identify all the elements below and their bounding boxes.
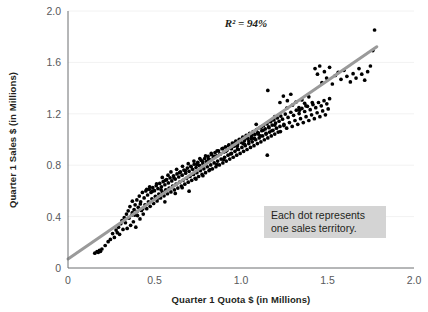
data-point (304, 115, 308, 119)
data-point (192, 159, 196, 163)
data-point (259, 140, 263, 144)
data-point (286, 116, 290, 120)
data-point (215, 163, 219, 167)
data-point (113, 236, 117, 240)
data-point (198, 157, 202, 161)
data-point (229, 152, 233, 156)
data-point (266, 136, 270, 140)
data-point (235, 153, 239, 157)
data-point (201, 160, 205, 164)
data-point (177, 175, 181, 179)
data-point (228, 157, 232, 161)
data-point (241, 142, 245, 146)
callout-line-1: Each dot represents (271, 209, 365, 221)
data-point (265, 153, 269, 157)
data-point (201, 174, 205, 178)
data-point (288, 121, 292, 125)
data-point (135, 198, 139, 202)
data-point (354, 76, 358, 80)
data-point (282, 94, 286, 98)
data-point (254, 122, 258, 126)
data-point (345, 74, 349, 78)
data-point (281, 117, 285, 121)
data-point (141, 212, 145, 216)
data-point (316, 72, 320, 76)
data-point (215, 149, 219, 153)
data-point (180, 186, 184, 190)
data-point (315, 111, 319, 115)
data-point (137, 194, 141, 198)
data-point (357, 67, 361, 71)
data-point (278, 125, 282, 129)
data-point (322, 99, 326, 103)
data-point (259, 134, 263, 138)
data-point (128, 205, 132, 209)
data-point (155, 182, 159, 186)
data-point (189, 165, 193, 169)
data-point (289, 92, 293, 96)
data-point (282, 124, 286, 128)
x-axis-title: Quarter 1 Quota $ (in Millions) (172, 294, 311, 305)
data-point (285, 126, 289, 130)
data-point (166, 181, 170, 185)
data-point (363, 78, 367, 82)
data-point (103, 244, 107, 248)
data-point (256, 142, 260, 146)
data-point (318, 64, 322, 68)
data-point (310, 113, 314, 117)
data-point (183, 182, 187, 186)
data-point (319, 104, 323, 108)
data-point (151, 189, 155, 193)
data-point (301, 121, 305, 125)
data-point (298, 108, 302, 112)
data-point (142, 196, 146, 200)
data-point (166, 173, 170, 177)
data-point (261, 128, 265, 132)
data-point (313, 117, 317, 121)
data-point (132, 220, 136, 224)
data-point (111, 232, 115, 236)
data-point (170, 179, 174, 183)
data-point (146, 193, 150, 197)
y-tick-label: 1.6 (46, 56, 61, 68)
data-point (373, 28, 377, 32)
data-point (109, 238, 113, 242)
data-point (313, 67, 317, 71)
data-point (252, 144, 256, 148)
data-point (209, 152, 213, 156)
data-point (293, 119, 297, 123)
data-point (172, 176, 176, 180)
data-point (296, 122, 300, 126)
data-point (138, 202, 142, 206)
data-point (292, 113, 296, 117)
data-point (247, 139, 251, 143)
data-point (314, 106, 318, 110)
data-point (308, 108, 312, 112)
data-point (204, 171, 208, 175)
data-point (273, 123, 277, 127)
data-point (318, 115, 322, 119)
data-point (195, 163, 199, 167)
data-point (186, 162, 190, 166)
data-point (326, 107, 330, 111)
data-point (266, 89, 270, 93)
data-point (148, 185, 152, 189)
data-point (118, 232, 122, 236)
x-tick-label: 1.5 (320, 274, 335, 286)
data-point (125, 212, 129, 216)
data-point (176, 186, 180, 190)
data-point (253, 137, 257, 141)
y-tick-label: 1.2 (46, 108, 61, 120)
scatter-chart: 00.40.81.21.62.0 00.51.01.52.0 Quarter 1… (0, 0, 428, 312)
data-point (366, 70, 370, 74)
data-point (190, 179, 194, 183)
data-point (369, 64, 373, 68)
data-point (134, 225, 138, 229)
data-point (187, 189, 191, 193)
data-point (160, 176, 164, 180)
data-point (299, 117, 303, 121)
data-point (183, 169, 187, 173)
data-point (256, 131, 260, 135)
data-point (131, 199, 135, 203)
data-point (178, 171, 182, 175)
